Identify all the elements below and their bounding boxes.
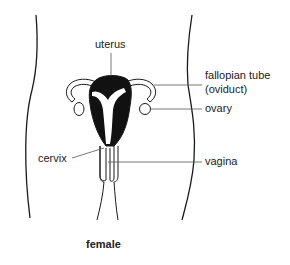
label-cervix: cervix <box>38 152 67 165</box>
leader-cervix <box>72 148 104 158</box>
label-uterus: uterus <box>95 38 126 51</box>
leg-inner-left <box>97 182 104 220</box>
body-outline-right <box>182 15 195 220</box>
ovary-right <box>140 104 151 115</box>
body-outline-left <box>26 15 37 218</box>
diagram-caption: female <box>86 238 121 250</box>
label-oviduct: (oviduct) <box>205 83 247 96</box>
leg-inner-right <box>114 182 118 220</box>
label-vagina: vagina <box>205 155 237 168</box>
vagina <box>100 146 114 181</box>
label-ovary: ovary <box>205 102 232 115</box>
ovary-left <box>74 103 84 116</box>
female-reproductive-diagram <box>0 0 290 265</box>
vagina-outer <box>100 146 118 182</box>
label-fallopian-tube: fallopian tube <box>205 69 270 82</box>
